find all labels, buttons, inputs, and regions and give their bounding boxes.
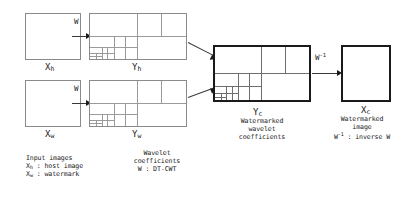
- caption-wavelet-line3: W : DT-CWT: [113, 166, 201, 174]
- label-y-watermark: Yw: [132, 129, 141, 141]
- box-watermarked-wavelet-coefficients: [213, 45, 311, 102]
- caption-combined-line3: coefficients: [216, 134, 308, 142]
- arrow-line-yh-to-yc: [188, 42, 214, 56]
- caption-output-line2: image: [318, 124, 406, 132]
- box-wavelet-host: [89, 13, 187, 60]
- label-y-host: Yh: [132, 62, 141, 74]
- arrow-line-yc-to-xc: [312, 73, 340, 74]
- caption-wavelet-coefficients: Wavelet coefficients W : DT-CWT: [113, 150, 201, 173]
- caption-watermarked-image: Watermarked image W-1 : inverse W: [318, 116, 406, 141]
- label-x-host: Xh: [45, 62, 54, 74]
- caption-output-line3: W-1 : inverse W: [318, 132, 406, 141]
- arrow-label-w-top: W: [74, 18, 79, 27]
- arrow-label-w-inverse: W-1: [315, 52, 326, 62]
- box-watermarked-image: [341, 45, 391, 102]
- arrow-label-w-bottom: W: [74, 85, 79, 94]
- diagram-canvas: Xh W Yh Xw W: [0, 0, 407, 199]
- caption-input-images: Input images Xh : host image Xw : waterm…: [26, 155, 83, 179]
- caption-input-line3: Xw : watermark: [26, 171, 83, 179]
- box-wavelet-watermark: [89, 80, 187, 127]
- caption-watermarked-wavelet: Watermarked wavelet coefficients: [216, 118, 308, 141]
- label-x-watermark: Xw: [45, 129, 54, 141]
